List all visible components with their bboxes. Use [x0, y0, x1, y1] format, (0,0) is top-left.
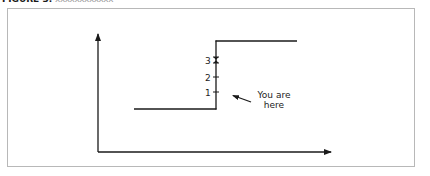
tick-label-2: 2 [205, 73, 211, 83]
step-diagram: 1 2 3 You are here [0, 0, 430, 176]
annotation-line-2: here [264, 100, 285, 110]
annotation-line-1: You are [257, 90, 291, 100]
tick-label-3: 3 [205, 56, 211, 66]
you-are-here-arrow [233, 96, 251, 103]
tick-label-1: 1 [205, 88, 211, 98]
